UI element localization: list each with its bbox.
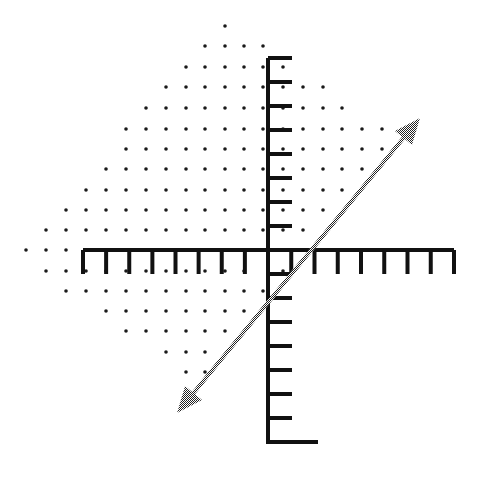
region-dot [44,228,48,232]
region-dot [203,167,207,171]
coordinate-graph [0,0,481,485]
region-dot [104,309,108,313]
region-dot [84,188,88,192]
region-dot [124,329,128,333]
axes [83,58,454,442]
region-dot [223,44,227,48]
graph-canvas [0,0,481,485]
region-dot [223,208,227,212]
region-dot [184,289,188,293]
region-dot [301,127,305,131]
region-dot [124,188,128,192]
region-dot [380,127,384,131]
region-dot [184,167,188,171]
region-dot [84,289,88,293]
region-dot [301,106,305,110]
region-dot [242,309,246,313]
region-dot [281,65,285,69]
region-dot [164,228,168,232]
region-dot [242,167,246,171]
region-dot [261,127,265,131]
region-dot [184,127,188,131]
region-dot [281,167,285,171]
region-dot [144,106,148,110]
region-dot [104,188,108,192]
region-dot [144,309,148,313]
region-dot [321,127,325,131]
region-dot [184,106,188,110]
region-dot [144,167,148,171]
region-dot [184,188,188,192]
region-dot [104,167,108,171]
region-dot [261,289,265,293]
region-dot [203,269,207,273]
region-dot [184,269,188,273]
region-dot [360,167,364,171]
region-dot [184,309,188,313]
region-dot [281,188,285,192]
region-dot [164,329,168,333]
region-dot [321,188,325,192]
region-dot [223,329,227,333]
region-dot [84,228,88,232]
region-dot [184,329,188,333]
region-dot [242,127,246,131]
region-dot [203,228,207,232]
region-dot [184,370,188,374]
region-dot [144,147,148,151]
region-dot [144,329,148,333]
region-dot [164,147,168,151]
region-dot [242,44,246,48]
region-dot [281,147,285,151]
region-dot [223,65,227,69]
region-dot [104,228,108,232]
region-dot [144,188,148,192]
region-dot [223,167,227,171]
region-dot [261,44,265,48]
region-dot [223,309,227,313]
region-dot [223,289,227,293]
region-dot [124,228,128,232]
region-dot [380,147,384,151]
region-dot [242,289,246,293]
region-dot [144,289,148,293]
region-dot [281,208,285,212]
region-dot [104,289,108,293]
region-dot [144,127,148,131]
region-dot [124,208,128,212]
region-dot [203,85,207,89]
region-dot [223,85,227,89]
region-dot [321,208,325,212]
region-dot [281,85,285,89]
region-dot [261,65,265,69]
region-dot [184,65,188,69]
region-dot [242,208,246,212]
region-dot [64,248,68,252]
region-dot [203,329,207,333]
region-dot [203,147,207,151]
region-dot [203,65,207,69]
region-dot [360,147,364,151]
region-dot [144,269,148,273]
region-dot [184,228,188,232]
region-dot [64,269,68,273]
region-dot [64,289,68,293]
region-dot [203,127,207,131]
region-dot [164,188,168,192]
region-dot [301,85,305,89]
region-dot [164,269,168,273]
region-dot [242,188,246,192]
region-dot [184,208,188,212]
region-dot [184,85,188,89]
region-dot [321,106,325,110]
region-dot [203,350,207,354]
region-dot [164,208,168,212]
region-dot [301,188,305,192]
region-dot [321,85,325,89]
region-dot [203,309,207,313]
region-dot [340,188,344,192]
region-dot [203,370,207,374]
region-dot [242,147,246,151]
region-dot [340,127,344,131]
region-dot [301,167,305,171]
